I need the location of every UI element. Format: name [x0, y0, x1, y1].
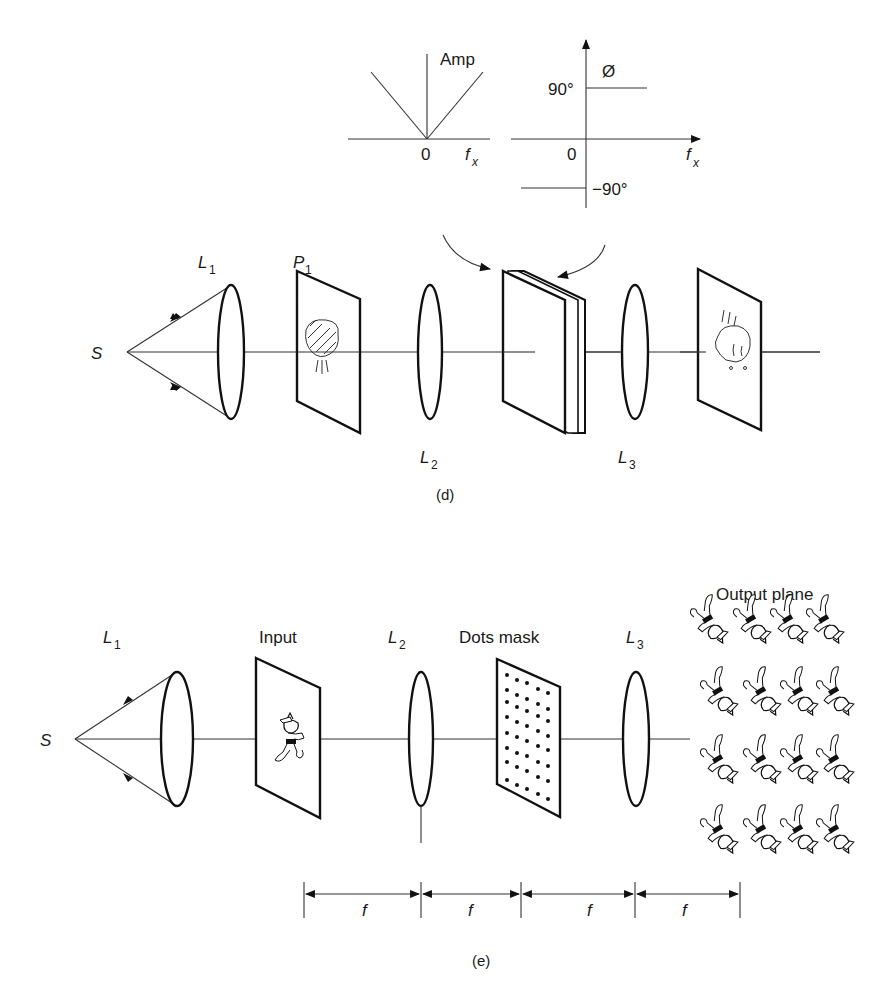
focal-spacing-dimensions: f f f f [304, 882, 740, 920]
lens-2-d-sub: 2 [431, 458, 438, 472]
source-label-d: S [91, 344, 103, 363]
figure-e: S L 1 Input L 2 Dots mask [40, 585, 862, 920]
output-plane-label: Output plane [716, 585, 813, 604]
spacing-label-1: f [362, 901, 369, 920]
lens-1-e-sub: 1 [114, 638, 121, 652]
output-plane-d [698, 269, 761, 430]
lens-3-d-label: L [618, 448, 627, 467]
spacing-label-4: f [682, 901, 689, 920]
lens-3-e-sub: 3 [637, 638, 644, 652]
spatial-filter-stack [503, 271, 585, 433]
lens-2-e [409, 672, 433, 806]
curved-arrow-right-icon [558, 245, 605, 277]
amplitude-x-label-sub: x [471, 155, 479, 169]
lens-1-d-label: L [198, 253, 207, 272]
output-replicated-images [687, 594, 862, 860]
lens-3-e-label: L [626, 628, 635, 647]
input-label: Input [259, 628, 297, 647]
lens-1-e [161, 672, 193, 806]
phase-x-label-sub: x [692, 156, 700, 170]
amplitude-plot: Amp 0 f x [348, 50, 490, 169]
caption-d: (d) [436, 486, 454, 503]
lens-3-e [623, 672, 649, 806]
amplitude-origin-label: 0 [421, 145, 430, 164]
phase-x-label: f [686, 145, 693, 164]
lens-3-d-sub: 3 [629, 458, 636, 472]
figure-d: Amp 0 f x Ø 90° 0 −90° f x S [91, 40, 820, 472]
lens-2-d-label: L [420, 448, 429, 467]
input-plane-e [256, 658, 320, 818]
lens-1-d-sub: 1 [209, 263, 216, 277]
phase-plot: Ø 90° 0 −90° f x [511, 40, 700, 208]
curved-arrow-left-icon [443, 235, 490, 269]
lens-3-d [622, 285, 648, 419]
lens-2-d [418, 285, 442, 419]
phase-axis-label: Ø [602, 62, 615, 81]
lens-1-e-label: L [103, 628, 112, 647]
lens-1-d [218, 285, 244, 419]
spacing-label-3: f [587, 901, 594, 920]
source-label-e: S [40, 731, 52, 750]
phase-90-label: 90° [548, 80, 574, 99]
phase-origin-label: 0 [567, 145, 576, 164]
lens-2-e-sub: 2 [399, 638, 406, 652]
spacing-label-2: f [468, 901, 475, 920]
plane-p1-sub: 1 [305, 263, 312, 277]
lens-2-e-label: L [388, 628, 397, 647]
phase-minus90-label: −90° [592, 180, 628, 199]
amplitude-x-label: f [465, 145, 472, 164]
plane-p1-label: P [293, 253, 305, 272]
dots-mask-label: Dots mask [459, 628, 540, 647]
caption-e: (e) [472, 952, 490, 969]
optical-diagram: Amp 0 f x Ø 90° 0 −90° f x S [0, 0, 895, 993]
amplitude-axis-label: Amp [440, 50, 475, 69]
